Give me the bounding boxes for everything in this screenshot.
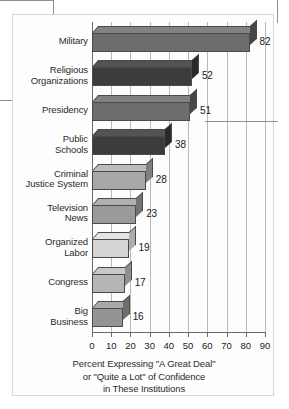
bar-value-label: 17 — [135, 278, 146, 288]
category-label-line: News — [65, 212, 88, 223]
gridline-60 — [207, 22, 208, 332]
category-label-line: Military — [59, 35, 88, 46]
x-tick-80 — [246, 332, 247, 337]
category-label: CriminalJustice System — [8, 169, 88, 190]
category-axis-labels: MilitaryReligiousOrganizationsPresidency… — [4, 22, 88, 332]
bar-side-face — [123, 295, 130, 320]
bar-value-label: 38 — [175, 140, 186, 150]
x-axis-title-line: in These Institutions — [103, 383, 185, 394]
x-tick-0 — [92, 332, 93, 337]
bar-side-face — [250, 19, 257, 44]
gridline-70 — [227, 22, 228, 332]
category-label: TelevisionNews — [8, 203, 88, 224]
category-label: Presidency — [8, 105, 88, 116]
category-label-line: Public — [63, 133, 88, 144]
x-tick-90 — [265, 332, 266, 337]
x-tick-30 — [150, 332, 151, 337]
bar-front-face — [92, 67, 192, 86]
bar-top-face — [92, 198, 143, 205]
category-label-line: Labor — [64, 247, 88, 258]
bar — [92, 274, 125, 293]
x-axis-title-line: Percent Expressing "A Great Deal" — [73, 358, 216, 369]
x-axis-line — [92, 332, 266, 333]
bar — [92, 136, 165, 155]
bar — [92, 308, 123, 327]
bar — [92, 205, 136, 224]
bar — [92, 67, 192, 86]
bar-front-face — [92, 136, 165, 155]
category-label-line: Organizations — [31, 75, 88, 86]
bar-front-face — [92, 171, 146, 190]
bar-value-label: 82 — [260, 37, 271, 47]
bar — [92, 33, 250, 52]
category-label-line: Schools — [55, 144, 88, 155]
category-label-line: Big — [75, 305, 88, 316]
gridline-80 — [246, 22, 247, 332]
category-label: PublicSchools — [8, 134, 88, 155]
bar-front-face — [92, 308, 123, 327]
x-tick-60 — [207, 332, 208, 337]
category-label: Military — [8, 36, 88, 47]
gridline-90 — [265, 22, 266, 332]
bar-top-face — [92, 60, 198, 67]
bar-value-label: 23 — [146, 209, 157, 219]
bar-value-label: 52 — [202, 71, 213, 81]
x-tick-40 — [169, 332, 170, 337]
plot-area: 825251382823191716 — [92, 22, 265, 332]
bar-side-face — [192, 54, 199, 79]
bar-front-face — [92, 239, 129, 258]
bar — [92, 239, 129, 258]
bar-top-face — [92, 164, 152, 171]
x-tick-70 — [227, 332, 228, 337]
bar-side-face — [165, 123, 172, 148]
x-axis-title: Percent Expressing "A Great Deal"or "Qui… — [22, 358, 266, 396]
bar — [92, 102, 190, 121]
bar-top-face — [92, 129, 171, 136]
bar-front-face — [92, 205, 136, 224]
bar-front-face — [92, 274, 125, 293]
scan-artifact-vertical-line — [277, 0, 278, 23]
category-label-line: Business — [50, 316, 88, 327]
chart-page: 825251382823191716 MilitaryReligiousOrga… — [0, 0, 289, 409]
x-tick-20 — [130, 332, 131, 337]
category-label-line: Religious — [50, 64, 88, 75]
category-label-line: Criminal — [54, 168, 88, 179]
bar-side-face — [146, 157, 153, 182]
category-label: ReligiousOrganizations — [8, 65, 88, 86]
category-label: Congress — [8, 277, 88, 288]
bar-side-face — [136, 192, 143, 217]
x-axis-title-line: or "Quite a Lot" of Confidence — [83, 371, 206, 382]
bar-top-face — [92, 95, 196, 102]
bar-side-face — [129, 226, 136, 251]
bar-value-label: 16 — [133, 312, 144, 322]
x-tick-50 — [188, 332, 189, 337]
category-label-line: Organized — [45, 236, 88, 247]
bar-value-label: 28 — [156, 175, 167, 185]
bar-front-face — [92, 102, 190, 121]
bar-value-label: 19 — [139, 243, 150, 253]
category-label: OrganizedLabor — [8, 237, 88, 258]
category-label-line: Television — [47, 202, 88, 213]
bar-front-face — [92, 33, 250, 52]
scan-artifact-horizontal-line — [205, 121, 278, 122]
bar-top-face — [92, 26, 256, 33]
x-tick-label: 90 — [253, 340, 277, 351]
bar-value-label: 51 — [200, 106, 211, 116]
bar-side-face — [190, 88, 197, 113]
bar — [92, 171, 146, 190]
category-label-line: Congress — [48, 276, 88, 287]
category-label: BigBusiness — [8, 306, 88, 327]
category-label-line: Justice System — [26, 178, 88, 189]
x-tick-10 — [111, 332, 112, 337]
category-label-line: Presidency — [42, 104, 88, 115]
